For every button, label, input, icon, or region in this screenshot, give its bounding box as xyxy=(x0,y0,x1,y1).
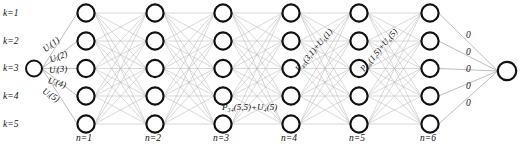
state-node-l5-k4[interactable] xyxy=(350,87,367,104)
terminal-metric-label-1: 0 xyxy=(466,31,471,41)
state-node-l6-k2[interactable] xyxy=(421,32,438,49)
input-label-3: Uᵢ(3) xyxy=(49,64,68,75)
network-graph xyxy=(0,0,521,148)
source-node[interactable] xyxy=(26,61,42,77)
state-node-l2-k3[interactable] xyxy=(146,60,163,77)
state-label-4: k=4 xyxy=(3,92,18,102)
state-node-l1-k2[interactable] xyxy=(77,32,94,49)
state-node-l3-k2[interactable] xyxy=(214,32,231,49)
state-node-l1-k4[interactable] xyxy=(77,87,94,104)
state-label-2: k=2 xyxy=(3,37,18,47)
terminal-metric-label-3: 0 xyxy=(466,65,471,75)
state-node-l3-k1[interactable] xyxy=(214,4,231,21)
state-node-l4-k5[interactable] xyxy=(282,115,299,132)
stage-label-4: n=4 xyxy=(281,134,297,144)
state-node-l4-k2[interactable] xyxy=(282,32,299,49)
state-node-l2-k5[interactable] xyxy=(146,115,163,132)
state-node-l6-k4[interactable] xyxy=(421,87,438,104)
sink-edge xyxy=(439,13,498,71)
state-node-l1-k3[interactable] xyxy=(77,60,94,77)
state-label-1: k=1 xyxy=(3,9,18,19)
state-node-l2-k1[interactable] xyxy=(146,4,163,21)
stage-label-2: n=2 xyxy=(145,134,161,144)
state-node-l3-k3[interactable] xyxy=(214,60,231,77)
stage-label-1: n=1 xyxy=(76,134,92,144)
state-node-l5-k5[interactable] xyxy=(350,115,367,132)
state-node-l6-k1[interactable] xyxy=(421,4,438,21)
terminal-metric-label-5: 0 xyxy=(466,99,471,109)
state-node-l2-k4[interactable] xyxy=(146,87,163,104)
state-node-l3-k5[interactable] xyxy=(214,115,231,132)
state-node-l4-k4[interactable] xyxy=(282,87,299,104)
sink-node[interactable] xyxy=(498,62,516,80)
state-node-l4-k1[interactable] xyxy=(282,4,299,21)
state-node-l5-k2[interactable] xyxy=(350,32,367,49)
terminal-metric-label-2: 0 xyxy=(466,48,471,58)
path-metric-label-1: P₃₄(5,5)+U₄(5) xyxy=(222,103,277,112)
state-node-l1-k1[interactable] xyxy=(77,4,94,21)
terminal-metric-label-4: 0 xyxy=(466,82,471,92)
state-node-l5-k1[interactable] xyxy=(350,4,367,21)
stage-label-5: n=5 xyxy=(349,134,365,144)
stage-label-6: n=6 xyxy=(420,134,436,144)
diagram-canvas: k=1k=2k=3k=4k=5 n=1n=2n=3n=4n=5n=6 Uᵢ(1)… xyxy=(0,0,521,148)
state-label-3: k=3 xyxy=(3,64,18,74)
state-label-5: k=5 xyxy=(3,120,18,130)
state-node-l6-k5[interactable] xyxy=(421,115,438,132)
stage-label-3: n=3 xyxy=(213,134,229,144)
state-node-l1-k5[interactable] xyxy=(77,115,94,132)
state-node-l6-k3[interactable] xyxy=(421,60,438,77)
state-node-l2-k2[interactable] xyxy=(146,32,163,49)
